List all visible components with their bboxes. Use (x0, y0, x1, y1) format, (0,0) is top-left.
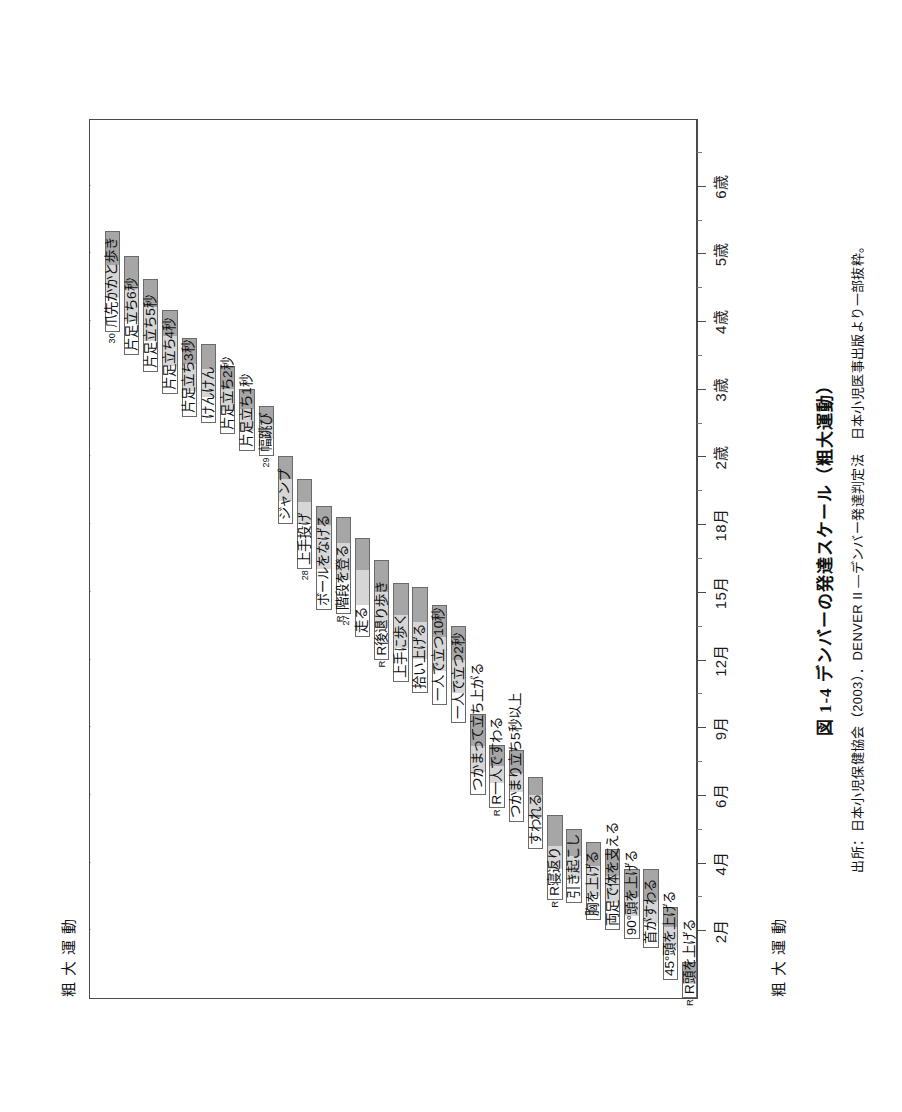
axis-tick-label-2歳: 2歳 (709, 445, 730, 469)
milestone-bar: 片足立ち1秒 (239, 389, 254, 451)
milestone-bar: 胸を上げる (586, 842, 601, 920)
milestone-bar: つかまり立ち5秒以上 (509, 750, 524, 822)
gridline-6歳 (90, 185, 91, 186)
milestone-label: 胸を上げる (587, 850, 601, 917)
milestone-label: R寝返り (548, 846, 562, 897)
milestone-label: 片足立ち1秒 (240, 373, 254, 448)
gridline-12月 (90, 659, 91, 660)
milestone-label: 片足立ち6秒 (125, 277, 139, 352)
axis-tick-4月 (697, 863, 706, 864)
milestone-label: 拾い上げる (413, 623, 427, 690)
milestone-bar: 片足立ち3秒 (182, 338, 197, 417)
gridline-9月 (90, 726, 91, 727)
figure-caption: 図 1-4 デンバーの発達スケール（粗大運動） (811, 41, 836, 1071)
milestone-label: 片足立ち3秒 (183, 339, 197, 414)
axis-minor-tick (697, 220, 702, 221)
axis-tick-5歳 (697, 253, 706, 254)
milestone-bar: 片足立ち2秒 (220, 366, 235, 434)
age-axis: 2月4月6月9月12月15月18月2歳3歳4歳5歳6歳 (697, 119, 757, 999)
milestone-bar: 45°頭を上げる (663, 907, 678, 980)
axis-tick-label-2月: 2月 (709, 919, 730, 943)
gridline-2歳 (90, 455, 91, 456)
axis-tick-9月 (697, 727, 706, 728)
gridline-5歳 (90, 252, 91, 253)
milestone-report-marker: R (550, 901, 560, 908)
milestone-bar: 上手投げ28 (297, 479, 312, 569)
axis-minor-tick (697, 693, 702, 694)
milestone-bar: ジャンプ (278, 456, 293, 524)
bar-segment-75-90 (548, 816, 561, 846)
milestone-bar: すわれる (528, 777, 543, 849)
axis-tick-4歳 (697, 321, 706, 322)
axis-tick-label-4歳: 4歳 (709, 310, 730, 334)
bar-segment-75-90 (413, 588, 426, 621)
milestone-bar: R後退り歩きR (374, 560, 389, 659)
sector-title-bottom: 粗大運動 (767, 913, 788, 997)
sector-title-top: 粗大運動 (57, 913, 78, 997)
milestone-bar: 90°頭を上げる (624, 869, 639, 939)
milestone-label: 上手に歩く (394, 612, 408, 679)
axis-tick-label-9月: 9月 (709, 716, 730, 740)
milestone-label: 片足立ち4秒 (163, 317, 177, 392)
bar-segment-75-90 (337, 518, 350, 542)
gridline-6月 (90, 794, 91, 795)
figure-number: 図 1-4 (816, 687, 835, 736)
milestone-report-marker: R (335, 615, 345, 622)
bar-segment-50-75 (356, 570, 369, 605)
axis-minor-tick (697, 829, 702, 830)
milestone-label: すわれる (529, 793, 543, 846)
milestone-label: 上手投げ (298, 512, 312, 566)
milestone-bar: 幅跳び29 (259, 406, 274, 457)
milestone-item-number: 30 (107, 333, 117, 343)
axis-minor-tick (697, 355, 702, 356)
milestone-label: 幅跳び (259, 412, 273, 453)
bar-segment-75-90 (298, 480, 311, 502)
bar-segment-75-90 (356, 539, 369, 570)
milestone-bar: 上手に歩く (393, 583, 408, 682)
axis-tick-3歳 (697, 389, 706, 390)
axis-tick-18月 (697, 524, 706, 525)
axis-tick-label-3歳: 3歳 (709, 378, 730, 402)
milestone-bar: R頭を上げるR (682, 962, 697, 998)
axis-tick-label-6月: 6月 (709, 784, 730, 808)
figure-source: 出所：日本小児保健協会（2003）．DENVER II ―デンバー発達判定法 日… (847, 41, 866, 1071)
milestone-report-marker: R (685, 999, 695, 1006)
axis-tick-2月 (697, 930, 706, 931)
figure-caption-text: デンバーの発達スケール（粗大運動） (816, 376, 835, 682)
milestone-bar: R一人ですわるR (489, 745, 504, 808)
axis-tick-12月 (697, 660, 706, 661)
milestone-label: ボールをなげる (317, 514, 331, 607)
milestone-label: 走る (356, 606, 370, 634)
milestone-item-number: 29 (261, 457, 271, 467)
axis-minor-tick (697, 287, 702, 288)
axis-tick-15月 (697, 592, 706, 593)
axis-minor-tick (697, 558, 702, 559)
milestone-bar: 拾い上げる (412, 587, 427, 693)
milestone-bar: 走る (355, 538, 370, 637)
milestone-bar: R寝返りR (547, 815, 562, 900)
milestone-bar: 片足立ち5秒 (143, 279, 158, 372)
milestone-label: R後退り歩き (375, 580, 389, 657)
milestone-report-marker: R (377, 661, 387, 668)
milestone-label: R頭を上げる (683, 918, 697, 995)
gridline-18月 (90, 523, 91, 524)
milestone-label: 爪先かかと歩き (106, 236, 120, 329)
axis-tick-label-4月: 4月 (709, 852, 730, 876)
milestone-label: つかまり立ち5秒以上 (510, 692, 524, 819)
axis-minor-tick (697, 896, 702, 897)
milestone-label: 首がすわる (644, 878, 658, 945)
bar-segment-75-90 (394, 584, 407, 615)
figure-stage: 粗大運動 R頭を上げるR45°頭を上げる首がすわる90°頭を上げる両足で体を支え… (41, 41, 861, 1071)
milestone-bar: 両足で体を支える (605, 849, 620, 930)
milestone-label: 片足立ち2秒 (221, 356, 235, 431)
gridline-3歳 (90, 388, 91, 389)
milestone-bar: 首がすわる (643, 869, 658, 948)
axis-tick-6月 (697, 795, 706, 796)
axis-minor-tick (697, 626, 702, 627)
gridline-4月 (90, 862, 91, 863)
milestone-bar: 片足立ち4秒 (162, 310, 177, 395)
milestone-label: 引き起こし (567, 833, 581, 900)
axis-line (697, 119, 698, 999)
axis-tick-6歳 (697, 186, 706, 187)
milestone-bar: 一人で立つ10秒 (432, 605, 447, 704)
